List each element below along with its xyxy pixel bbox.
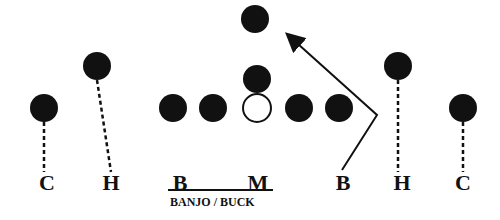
player-qb [243,65,271,93]
position-label-b: B [336,172,351,194]
position-label-h: H [102,172,119,194]
position-label-m: M [248,172,269,194]
player-rt [325,94,353,122]
position-label-c: C [39,172,55,194]
player-center [243,94,271,122]
player-left-c [30,94,58,122]
position-label-c: C [455,172,471,194]
caption-banjo-buck: BANJO / BUCK [170,196,255,208]
left-h-dash [97,80,111,172]
position-label-b: B [173,172,188,194]
player-right-c [449,94,477,122]
player-lg [199,94,227,122]
player-safety [241,5,269,33]
player-left-h [83,52,111,80]
player-lt [159,94,187,122]
player-right-h [384,52,412,80]
player-rg [285,94,313,122]
position-label-h: H [393,172,410,194]
